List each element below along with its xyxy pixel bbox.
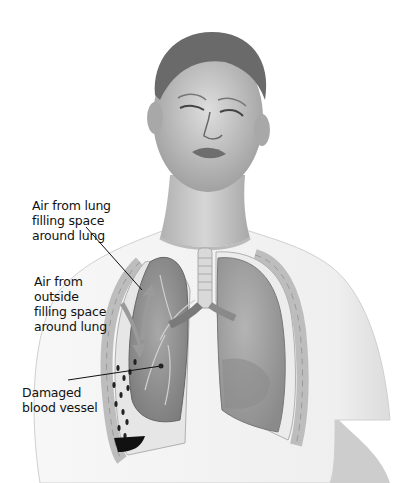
label-air-from-lung: Air from lung filling space around lung — [32, 198, 111, 243]
label-line: blood vessel — [22, 400, 98, 415]
man-head — [147, 32, 270, 192]
label-line: filling space — [34, 304, 107, 319]
label-line: Air from — [34, 274, 107, 289]
label-line: Air from lung — [32, 198, 111, 213]
right-arm — [330, 410, 390, 483]
label-line: Damaged — [22, 385, 98, 400]
damaged-vessel-marker — [159, 364, 164, 369]
label-air-from-outside: Air from outside filling space around lu… — [34, 274, 107, 334]
label-line: around lung — [32, 228, 111, 243]
label-line: around lung — [34, 319, 107, 334]
label-line: filling space — [32, 213, 111, 228]
label-damaged-blood-vessel: Damaged blood vessel — [22, 385, 98, 415]
label-line: outside — [34, 289, 107, 304]
